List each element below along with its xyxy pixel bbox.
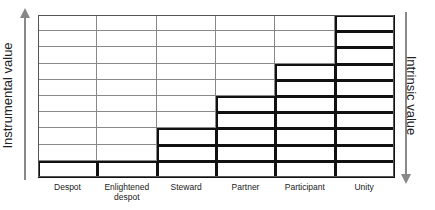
empty-cell: [97, 15, 156, 31]
filled-cell: [275, 161, 335, 178]
filled-cell: [335, 145, 395, 162]
filled-cell: [97, 161, 157, 178]
filled-cell: [335, 96, 395, 113]
arrowhead-down-icon: [401, 174, 411, 184]
empty-cell: [157, 80, 216, 96]
filled-cell: [275, 112, 335, 129]
filled-cell: [216, 96, 276, 113]
empty-cell: [216, 15, 275, 31]
column-label: Enlightened despot: [97, 182, 156, 202]
filled-cell: [335, 31, 395, 48]
empty-cell: [157, 15, 216, 31]
empty-cell: [97, 96, 156, 112]
filled-cell: [335, 128, 395, 145]
filled-cell: [335, 47, 395, 64]
empty-cell: [97, 31, 156, 47]
empty-cell: [38, 31, 97, 47]
filled-cell: [216, 112, 276, 129]
empty-cell: [216, 80, 275, 96]
filled-cell: [216, 161, 276, 178]
empty-cell: [38, 47, 97, 63]
filled-cell: [157, 161, 217, 178]
empty-cell: [97, 47, 156, 63]
empty-cell: [275, 47, 334, 63]
filled-cell: [275, 128, 335, 145]
arrowhead-up-icon: [20, 8, 30, 18]
filled-cell: [38, 161, 98, 178]
empty-cell: [97, 112, 156, 128]
filled-cell: [275, 96, 335, 113]
filled-cell: [335, 64, 395, 81]
empty-cell: [157, 47, 216, 63]
filled-cell: [275, 145, 335, 162]
column-label: Unity: [335, 182, 394, 192]
filled-cell: [335, 161, 395, 178]
empty-cell: [275, 15, 334, 31]
empty-cell: [157, 64, 216, 80]
empty-cell: [275, 31, 334, 47]
instrumental-value-arrow-up-icon: [24, 12, 26, 180]
filled-cell: [157, 128, 217, 145]
empty-cell: [97, 80, 156, 96]
filled-cell: [157, 145, 217, 162]
column-label: Participant: [275, 182, 334, 192]
filled-cell: [216, 145, 276, 162]
empty-cell: [216, 47, 275, 63]
column-label: Partner: [216, 182, 275, 192]
empty-cell: [157, 96, 216, 112]
filled-cell: [216, 128, 276, 145]
empty-cell: [38, 80, 97, 96]
filled-cell: [275, 64, 335, 81]
empty-cell: [157, 112, 216, 128]
empty-cell: [97, 128, 156, 144]
filled-cell: [335, 80, 395, 97]
column-label: Steward: [157, 182, 216, 192]
intrinsic-value-label: Intrinsic value: [404, 56, 419, 135]
value-grid: [38, 15, 394, 177]
empty-cell: [38, 128, 97, 144]
empty-cell: [38, 112, 97, 128]
empty-cell: [157, 31, 216, 47]
filled-cell: [335, 112, 395, 129]
instrumental-value-label: Instrumental value: [0, 42, 15, 148]
empty-cell: [97, 64, 156, 80]
filled-cell: [335, 15, 395, 32]
empty-cell: [38, 96, 97, 112]
empty-cell: [216, 31, 275, 47]
filled-cell: [275, 80, 335, 97]
column-label: Despot: [38, 182, 97, 192]
empty-cell: [38, 15, 97, 31]
empty-cell: [97, 145, 156, 161]
empty-cell: [38, 145, 97, 161]
empty-cell: [216, 64, 275, 80]
empty-cell: [38, 64, 97, 80]
